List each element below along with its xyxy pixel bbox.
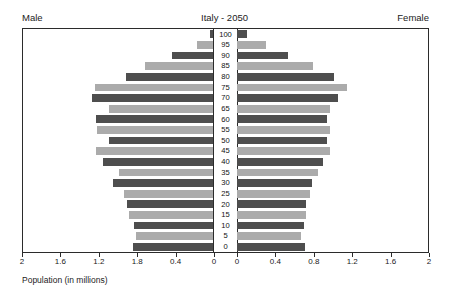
female-axis-tick-label: 2 — [427, 257, 431, 266]
bar-row — [237, 146, 428, 157]
age-group-label: 60 — [214, 114, 237, 125]
bar-row — [23, 220, 214, 231]
female-bar-age-55 — [237, 126, 330, 134]
male-x-axis: 21.61.21.80.40 — [22, 253, 214, 269]
age-group-label: 0 — [214, 242, 237, 253]
age-group-label: 40 — [214, 157, 237, 168]
male-bar-age-70 — [92, 94, 214, 102]
male-panel — [23, 29, 214, 252]
bar-row — [237, 114, 428, 125]
male-bar-age-15 — [129, 211, 214, 219]
bar-row — [23, 210, 214, 221]
male-bar-age-60 — [96, 115, 214, 123]
x-axis-caption: Population (in millions) — [22, 275, 108, 285]
bar-row — [237, 72, 428, 83]
female-bar-age-70 — [237, 94, 338, 102]
bar-row — [237, 167, 428, 178]
female-axis-tick-label: 1.2 — [347, 257, 358, 266]
male-axis-tick-label: 0 — [212, 257, 216, 266]
female-bar-age-0 — [237, 243, 305, 251]
female-bar-age-25 — [237, 190, 310, 198]
bar-row — [23, 29, 214, 40]
male-bar-age-55 — [97, 126, 214, 134]
age-group-label: 30 — [214, 178, 237, 189]
age-group-label: 20 — [214, 199, 237, 210]
bar-row — [237, 40, 428, 51]
bar-row — [23, 135, 214, 146]
age-group-label: 100 — [214, 29, 237, 40]
male-bar-age-80 — [126, 73, 214, 81]
female-bar-age-30 — [237, 179, 312, 187]
bar-row — [23, 199, 214, 210]
bar-row — [23, 61, 214, 72]
male-bar-age-50 — [109, 137, 214, 145]
male-axis-tick-label: 2 — [20, 257, 24, 266]
age-group-label: 65 — [214, 103, 237, 114]
female-bar-age-40 — [237, 158, 323, 166]
male-bar-age-40 — [103, 158, 214, 166]
female-bar-age-45 — [237, 147, 330, 155]
bar-row — [23, 146, 214, 157]
bar-row — [237, 242, 428, 253]
female-bar-age-80 — [237, 73, 334, 81]
female-bar-age-60 — [237, 115, 327, 123]
female-x-axis: 00.40.81.21.62 — [237, 253, 429, 269]
population-pyramid-chart: Male Italy - 2050 Female 100959085807570… — [0, 0, 449, 297]
male-bar-age-20 — [127, 200, 214, 208]
female-bar-age-85 — [237, 62, 313, 70]
female-bar-age-90 — [237, 52, 288, 60]
female-side-label: Female — [397, 12, 429, 23]
bar-row — [23, 93, 214, 104]
male-bar-age-5 — [136, 232, 214, 240]
bar-row — [237, 199, 428, 210]
male-bar-age-95 — [197, 41, 214, 49]
bar-row — [23, 167, 214, 178]
age-group-label: 50 — [214, 135, 237, 146]
male-bar-age-10 — [134, 222, 214, 230]
bar-row — [237, 231, 428, 242]
female-axis-tick-label: 0.8 — [308, 257, 319, 266]
female-bar-age-100 — [237, 30, 247, 38]
bar-row — [237, 103, 428, 114]
bar-row — [237, 157, 428, 168]
age-group-label: 80 — [214, 72, 237, 83]
female-bar-age-35 — [237, 169, 318, 177]
bar-row — [237, 178, 428, 189]
female-bar-age-5 — [237, 232, 301, 240]
female-axis-tick-label: 1.6 — [385, 257, 396, 266]
bar-row — [23, 178, 214, 189]
bar-row — [237, 29, 428, 40]
female-bar-age-65 — [237, 105, 330, 113]
female-bar-age-15 — [237, 211, 306, 219]
female-bar-age-20 — [237, 200, 306, 208]
male-axis-tick-label: 1.2 — [93, 257, 104, 266]
male-bar-age-85 — [145, 62, 214, 70]
chart-title: Italy - 2050 — [0, 12, 449, 23]
bar-row — [23, 72, 214, 83]
age-group-label: 15 — [214, 210, 237, 221]
male-bar-age-65 — [109, 105, 214, 113]
bar-row — [237, 220, 428, 231]
bar-row — [23, 157, 214, 168]
bar-row — [23, 242, 214, 253]
bar-row — [237, 61, 428, 72]
age-group-label: 70 — [214, 93, 237, 104]
female-bar-age-95 — [237, 41, 266, 49]
age-group-label: 5 — [214, 231, 237, 242]
male-bar-rows — [23, 29, 214, 252]
female-bar-age-50 — [237, 137, 327, 145]
age-group-label: 95 — [214, 40, 237, 51]
age-group-label: 85 — [214, 61, 237, 72]
bar-row — [237, 210, 428, 221]
male-axis-tick-label: 1.6 — [55, 257, 66, 266]
bar-row — [237, 50, 428, 61]
age-group-label: 10 — [214, 220, 237, 231]
bar-row — [23, 231, 214, 242]
bar-row — [23, 50, 214, 61]
male-bar-age-30 — [113, 179, 214, 187]
male-bar-age-75 — [95, 84, 214, 92]
bar-row — [237, 93, 428, 104]
bar-row — [23, 114, 214, 125]
male-bar-age-0 — [133, 243, 214, 251]
female-bar-age-10 — [237, 222, 304, 230]
